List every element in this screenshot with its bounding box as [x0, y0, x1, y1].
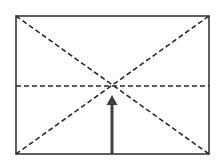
diagram-canvas — [0, 0, 221, 162]
up-arrow-icon — [107, 95, 118, 154]
frame-diagram — [0, 0, 221, 162]
arrow-head — [107, 95, 118, 105]
